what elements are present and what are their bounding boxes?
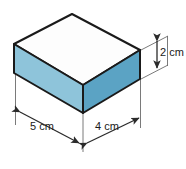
- prism-drawing: [0, 0, 186, 169]
- dimension-label-height: 2 cm: [160, 46, 184, 58]
- witness-line-height-bottom: [141, 65, 168, 79]
- geometry-figure: 2 cm 5 cm 4 cm: [0, 0, 186, 169]
- dimension-label-length: 5 cm: [30, 120, 54, 132]
- dimension-label-width: 4 cm: [95, 120, 119, 132]
